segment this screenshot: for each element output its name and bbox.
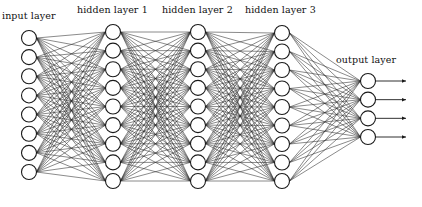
connection-edge (37, 162, 106, 172)
neuron-node (22, 165, 37, 180)
neuron-node (191, 80, 206, 95)
connection-edge (290, 70, 361, 81)
neuron-node (106, 80, 121, 95)
connection-edge (37, 32, 106, 134)
neuron-node (275, 174, 290, 189)
neuron-node (191, 99, 206, 114)
neuron-node (191, 118, 206, 133)
neuron-node (191, 174, 206, 189)
neuron-node (191, 62, 206, 77)
neuron-node (275, 137, 290, 152)
hidden-layer-3-label: hidden layer 3 (245, 4, 316, 15)
neuron-node (22, 126, 37, 141)
neuron-node (275, 44, 290, 59)
neuron-node (191, 25, 206, 40)
neuron-node (191, 43, 206, 58)
neuron-node (106, 43, 121, 58)
connection-edge (37, 51, 106, 172)
output-arrows (376, 81, 407, 137)
neuron-node (275, 26, 290, 41)
neuron-node (275, 81, 290, 96)
neuron-node (275, 63, 290, 78)
hidden-layer-2-label: hidden layer 2 (162, 4, 233, 15)
input-layer-label: input layer (2, 10, 56, 21)
network-graphic (0, 0, 422, 207)
neuron-node (275, 100, 290, 115)
neuron-node (106, 99, 121, 114)
hidden-layer-1-label: hidden layer 1 (77, 4, 148, 15)
neuron-node (361, 74, 376, 89)
neuron-node (191, 155, 206, 170)
connection-edge (290, 118, 361, 181)
neuron-node (106, 136, 121, 151)
output-layer-label: output layer (336, 54, 396, 65)
neuron-node (106, 62, 121, 77)
neuron-node (106, 118, 121, 133)
neuron-node (22, 69, 37, 84)
neuron-node (22, 50, 37, 65)
neuron-node (22, 107, 37, 122)
neuron-node (361, 92, 376, 107)
neuron-node (275, 155, 290, 170)
neural-network-diagram: input layer hidden layer 1 hidden layer … (0, 0, 422, 207)
neuron-node (106, 155, 121, 170)
neuron-node (191, 136, 206, 151)
neuron-node (361, 111, 376, 126)
neuron-node (22, 88, 37, 103)
neuron-node (22, 145, 37, 160)
neuron-node (361, 130, 376, 145)
connection-edge (206, 33, 275, 51)
connection-edge (37, 32, 106, 38)
neuron-node (106, 174, 121, 189)
neuron-node (275, 118, 290, 133)
connection-edge (290, 137, 361, 181)
neuron-node (106, 25, 121, 40)
neuron-node (22, 31, 37, 46)
connection-edge (206, 32, 275, 33)
connection-edge (206, 33, 275, 88)
